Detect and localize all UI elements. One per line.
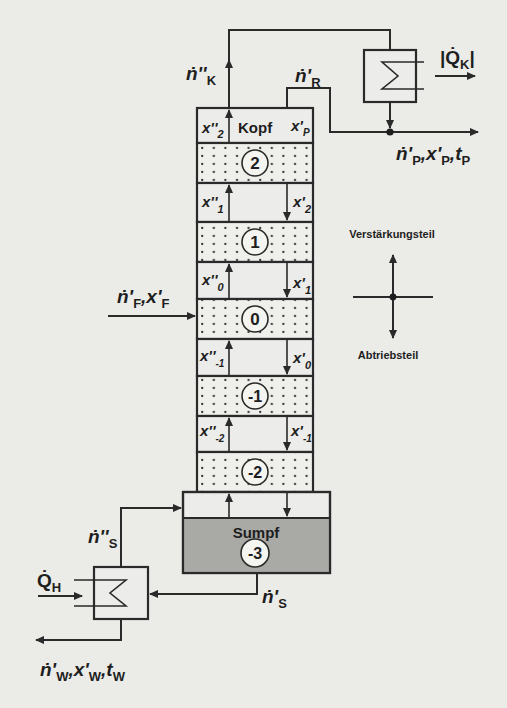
sump-outlet-line: [150, 573, 257, 594]
bottoms-line: [36, 619, 121, 640]
sump-liquid-label: ṅ'S: [262, 586, 287, 611]
junction-dot: [386, 128, 393, 135]
condenser-duty-label: |Q̇K|: [440, 47, 475, 72]
tray-number: 0: [250, 310, 259, 329]
reflux-label: ṅ'R: [295, 65, 321, 90]
feed-label: ṅ'F,x'F: [117, 286, 169, 311]
distillation-diagram: x''2 Kopf x'P 2 1 0 -1 -2 x''1 x'2 x''0 …: [0, 0, 507, 708]
distillate-label: ṅ'P,x'P,tP: [396, 143, 470, 168]
legend-down-label: Abtriebsteil: [358, 349, 419, 361]
tray-number: -1: [248, 388, 262, 405]
section-direction-legend: [353, 255, 433, 338]
sump-number: -3: [248, 545, 262, 562]
tray-number: 2: [250, 154, 259, 173]
condenser-box: [364, 50, 416, 102]
vapor-top-label: ṅ''K: [186, 63, 217, 88]
boilup-line: [121, 508, 181, 567]
bottoms-label: ṅ'W,x'W,tW: [40, 659, 126, 684]
sump-label: Sumpf: [233, 524, 281, 541]
head-label: Kopf: [238, 119, 273, 136]
reboiler-duty-label: Q̇H: [37, 570, 61, 595]
condenser: [364, 50, 424, 102]
boilup-label: ṅ''S: [88, 526, 118, 551]
reboiler: [74, 567, 148, 619]
tray-number: 1: [250, 233, 259, 252]
legend-up-label: Verstärkungsteil: [349, 228, 435, 240]
reboiler-box: [94, 567, 148, 619]
tray-number: -2: [248, 464, 262, 481]
